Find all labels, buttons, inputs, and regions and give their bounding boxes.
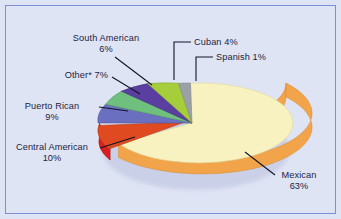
label-central-american-pct: 10% <box>5 153 99 164</box>
label-spanish-text: Spanish 1% <box>216 52 266 62</box>
chart-frame: South American 6% Other* 7% Puerto Rican… <box>0 0 341 219</box>
label-mexican-pct: 63% <box>268 181 330 192</box>
label-south-american-pct: 6% <box>52 44 160 55</box>
label-mexican: Mexican 63% <box>268 170 330 191</box>
label-cuban: Cuban 4% <box>194 37 238 48</box>
label-mexican-name: Mexican <box>282 170 317 180</box>
leader-line-spanish <box>196 57 213 81</box>
label-puerto-rican-name: Puerto Rican <box>25 101 79 111</box>
label-central-american-name: Central American <box>16 142 88 152</box>
label-other: Other* 7% <box>18 70 108 81</box>
label-puerto-rican-pct: 9% <box>8 112 96 123</box>
leader-line-cuban <box>174 42 191 80</box>
leader-line-south-american <box>115 57 152 85</box>
label-spanish: Spanish 1% <box>216 52 266 63</box>
label-central-american: Central American 10% <box>5 142 99 163</box>
label-other-text: Other* 7% <box>65 70 108 80</box>
label-south-american-name: South American <box>73 33 139 43</box>
label-puerto-rican: Puerto Rican 9% <box>8 101 96 122</box>
label-south-american: South American 6% <box>52 33 160 54</box>
label-cuban-text: Cuban 4% <box>194 37 238 47</box>
